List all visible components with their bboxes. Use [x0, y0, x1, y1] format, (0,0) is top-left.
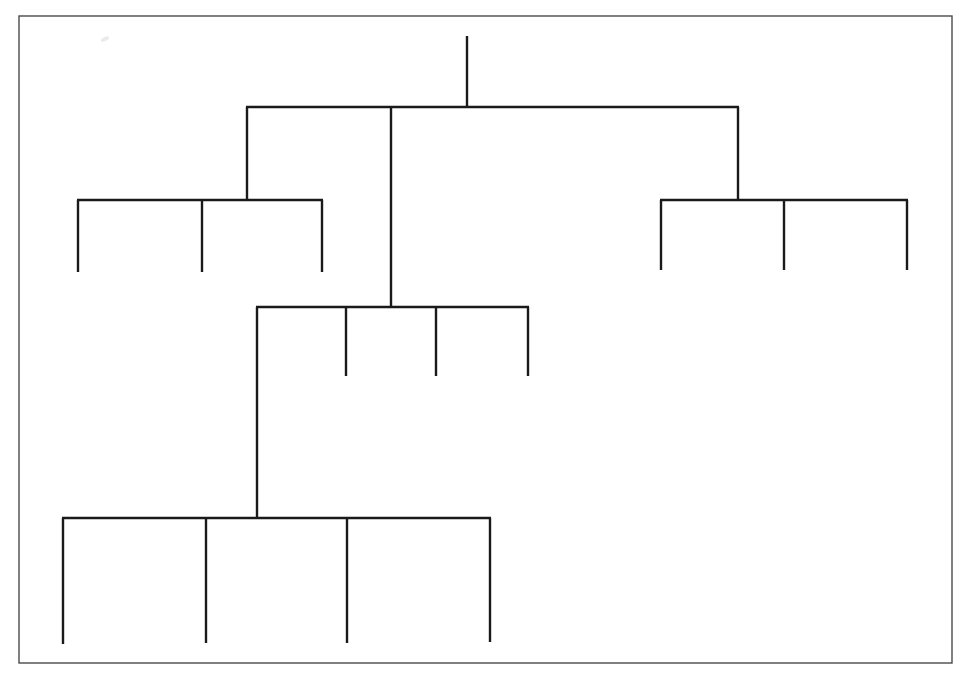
- diagram-page: [0, 0, 969, 675]
- tree-diagram-canvas: [0, 0, 969, 675]
- canvas-background: [0, 0, 969, 675]
